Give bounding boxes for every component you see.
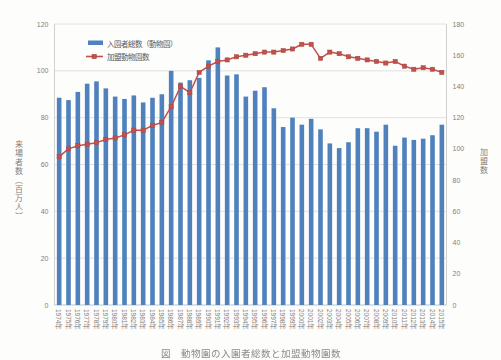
left-axis-tick-label: 0 (45, 302, 49, 309)
right-axis-tick-label: 160 (453, 52, 465, 59)
x-axis-year-label: 2001年 (306, 309, 315, 330)
member-zoos-point-marker (393, 59, 397, 63)
member-zoos-point-marker (402, 64, 406, 68)
visitor-total-bar (113, 97, 118, 305)
x-axis-year-label: 2012年 (409, 309, 418, 330)
visitor-total-bar (272, 108, 277, 305)
member-zoos-point-marker (318, 56, 322, 60)
visitor-total-bar (85, 84, 90, 305)
axis-tick-labels: 0204060801001200204060801001201401601801… (37, 21, 464, 331)
left-axis-tick-label: 60 (41, 161, 49, 168)
member-zoos-point-marker (169, 105, 173, 109)
visitor-total-bar (234, 74, 239, 305)
member-zoos-point-marker (150, 123, 154, 127)
visitor-total-bar (66, 100, 71, 305)
x-axis-year-label: 1990年 (204, 309, 213, 330)
right-axis-tick-label: 140 (453, 83, 465, 90)
visitor-total-bar (309, 119, 314, 305)
legend-bar-label: 入園者総数（動物園） (107, 39, 177, 49)
legend: 入園者総数（動物園） 加盟動物園数 (86, 39, 177, 62)
visitor-total-bar (365, 128, 370, 305)
member-zoos-point-marker (113, 136, 117, 140)
right-axis-title: 加盟数 (477, 148, 488, 175)
member-zoos-point-marker (300, 42, 304, 46)
member-zoos-point-marker (337, 52, 341, 56)
x-axis-year-label: 1991年 (213, 309, 222, 330)
visitor-total-bar (281, 127, 286, 305)
visitor-total-bar (206, 60, 211, 305)
visitor-total-bar (225, 76, 230, 305)
visitor-total-bar (141, 102, 146, 305)
member-zoos-point-marker (440, 70, 444, 74)
visitor-total-bar (76, 92, 81, 305)
visitor-total-bar (402, 138, 407, 305)
visitor-total-bar (57, 98, 62, 305)
x-axis-year-label: 1998年 (278, 309, 287, 330)
legend-line-marker-icon (92, 54, 96, 58)
visitor-total-bar (188, 80, 193, 305)
x-axis-year-label: 1977年 (82, 309, 91, 330)
x-axis-year-label: 1976年 (73, 309, 82, 330)
x-axis-year-label: 1997年 (269, 309, 278, 330)
visitor-total-bar (150, 98, 155, 305)
member-zoos-point-marker (141, 128, 145, 132)
visitor-total-bar (384, 125, 389, 305)
member-zoos-point-marker (57, 155, 61, 159)
right-axis-tick-label: 20 (453, 270, 461, 277)
visitor-total-bar (216, 47, 221, 305)
figure-caption-cutoff: 図 動物園の入園者総数と加盟動物園数 (161, 346, 341, 360)
visitor-total-bar (290, 118, 295, 305)
visitor-total-bar (393, 146, 398, 305)
x-axis-year-label: 1993年 (232, 309, 241, 330)
x-axis-year-label: 2003年 (325, 309, 334, 330)
visitor-total-bar (122, 99, 127, 305)
member-zoos-point-marker (421, 66, 425, 70)
member-zoos-point-marker (132, 128, 136, 132)
member-zoos-point-marker (104, 137, 108, 141)
x-axis-year-label: 1996年 (260, 309, 269, 330)
member-zoos-point-marker (178, 84, 182, 88)
visitor-total-bar (328, 143, 333, 305)
visitor-total-bar (178, 83, 183, 305)
member-zoos-point-marker (206, 64, 210, 68)
x-axis-year-label: 1988年 (185, 309, 194, 330)
visitor-total-bar (132, 95, 137, 305)
member-zoos-point-marker (122, 133, 126, 137)
member-zoos-point-marker (430, 67, 434, 71)
right-axis-tick-label: 80 (453, 177, 461, 184)
visitor-total-bar (300, 125, 305, 305)
member-zoos-point-marker (384, 61, 388, 65)
x-axis-year-label: 2004年 (334, 309, 343, 330)
x-axis-year-label: 1995年 (250, 309, 259, 330)
x-axis-year-label: 2008年 (372, 309, 381, 330)
x-axis-year-label: 2010年 (390, 309, 399, 330)
right-axis-tick-label: 100 (453, 145, 465, 152)
right-axis-tick-label: 0 (453, 302, 457, 309)
x-axis-year-label: 1982年 (129, 309, 138, 330)
member-zoos-point-marker (216, 59, 220, 63)
x-axis-year-label: 1975年 (64, 309, 73, 330)
visitor-total-bar (356, 128, 361, 305)
visitor-total-bar (160, 94, 165, 305)
member-zoos-point-marker (365, 58, 369, 62)
right-axis-tick-label: 180 (453, 21, 465, 28)
x-axis-year-label: 1974年 (54, 309, 63, 330)
x-axis-year-label: 1983年 (138, 309, 147, 330)
x-axis-year-label: 1994年 (241, 309, 250, 330)
x-axis-year-label: 2011年 (400, 309, 409, 330)
visitor-total-bar (253, 91, 258, 305)
left-axis-tick-label: 40 (41, 208, 49, 215)
member-zoos-point-marker (253, 52, 257, 56)
x-axis-year-label: 1992年 (222, 309, 231, 330)
x-axis-year-label: 2015年 (437, 309, 446, 330)
x-axis-year-label: 2009年 (381, 309, 390, 330)
legend-line-label: 加盟動物園数 (107, 52, 150, 62)
member-zoos-point-marker (234, 55, 238, 59)
x-axis-year-label: 1999年 (288, 309, 297, 330)
x-axis-year-label: 2014年 (428, 309, 437, 330)
x-axis-year-label: 1987年 (176, 309, 185, 330)
member-zoos-point-marker (290, 47, 294, 51)
x-axis-year-label: 1980年 (110, 309, 119, 330)
visitor-total-bar (337, 148, 342, 305)
